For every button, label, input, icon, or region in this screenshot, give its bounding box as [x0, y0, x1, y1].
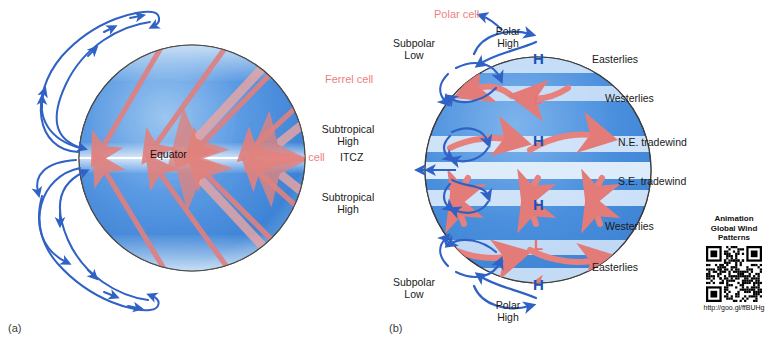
panel-b-label: (b) [389, 322, 402, 334]
subpolar-low-label-south: Subpolar Low [383, 277, 445, 300]
animation-qr-block[interactable]: Animation Global Wind Patterns http://go… [688, 214, 780, 311]
equator-label-a: Equator [150, 148, 187, 160]
polar-high-label-south: Polar High [484, 300, 532, 323]
pressure-marker-h-south-pole: H [533, 276, 544, 293]
qr-caption: Animation Global Wind Patterns [688, 214, 780, 243]
se-tradewind-label: S.E. tradewind [618, 176, 686, 188]
pressure-marker-h-south-subtropical: H [533, 196, 544, 213]
ne-tradewind-label: N.E. tradewind [618, 137, 687, 149]
pressure-marker-l-north-subpolar: L [534, 90, 543, 107]
panel-a-label: (a) [8, 322, 21, 334]
subtropical-high-label-north: Subtropical High [311, 124, 385, 147]
easterlies-label-north: Easterlies [592, 54, 638, 66]
pressure-marker-h-north-pole: H [533, 50, 544, 67]
pressure-marker-l-south-subpolar: L [534, 236, 543, 253]
polar-high-label-north: Polar High [484, 26, 532, 49]
easterlies-label-south: Easterlies [592, 262, 638, 274]
subtropical-high-label-south: Subtropical High [311, 192, 385, 215]
westerlies-label-north: Westerlies [605, 93, 654, 105]
figure-global-wind-patterns: Equator (a) [0, 0, 782, 341]
westerlies-label-south: Westerlies [605, 221, 654, 233]
itcz-label: ITCZ [340, 152, 363, 164]
hadley-cell-label: Hadley cell [271, 151, 325, 163]
ferrel-cell-label: Ferrel cell [325, 73, 373, 85]
pressure-marker-h-north-subtropical: H [533, 132, 544, 149]
polar-cell-label: Polar cell [434, 8, 479, 20]
ferrel-south-arrow-left [440, 238, 448, 266]
qr-url-label: http://goo.gl/ffBUHg [688, 304, 780, 311]
panel-a-illustration [0, 0, 400, 341]
subpolar-low-label-north: Subpolar Low [383, 38, 445, 61]
ferrel-cell-arrow-left [440, 74, 448, 102]
qr-code-image[interactable] [706, 246, 762, 302]
